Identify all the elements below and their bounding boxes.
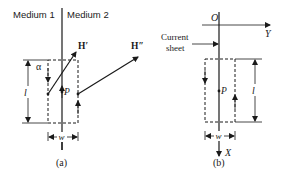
h-double-prime-label: H″	[131, 41, 144, 51]
figure-a: Medium 1 Medium 2 l α H′ H″ P	[13, 8, 144, 169]
l-label-b: l	[252, 85, 255, 96]
origin-label: O	[211, 12, 218, 23]
caption-a: (a)	[56, 157, 67, 169]
current-sheet-label-line1: Current	[161, 32, 189, 42]
w-label-b: w	[216, 131, 222, 141]
caption-b: (b)	[213, 157, 225, 169]
alpha-label: α	[36, 61, 42, 72]
h-prime-label: H′	[78, 41, 88, 51]
medium-1-label: Medium 1	[13, 9, 55, 20]
p-label-b: P	[220, 86, 227, 96]
h-double-prime-vector	[78, 57, 138, 94]
figure-b: O Y X Current sheet P l w (b)	[161, 12, 272, 169]
current-sheet-label-line2: sheet	[166, 43, 185, 53]
medium-2-label: Medium 2	[67, 9, 109, 20]
p-label-a: P	[63, 87, 70, 97]
x-axis-label: X	[224, 147, 232, 158]
w-label-a: w	[59, 132, 65, 142]
l-label-a: l	[24, 87, 27, 98]
diagram-canvas: Medium 1 Medium 2 l α H′ H″ P	[0, 0, 284, 179]
y-axis-label: Y	[265, 28, 272, 39]
